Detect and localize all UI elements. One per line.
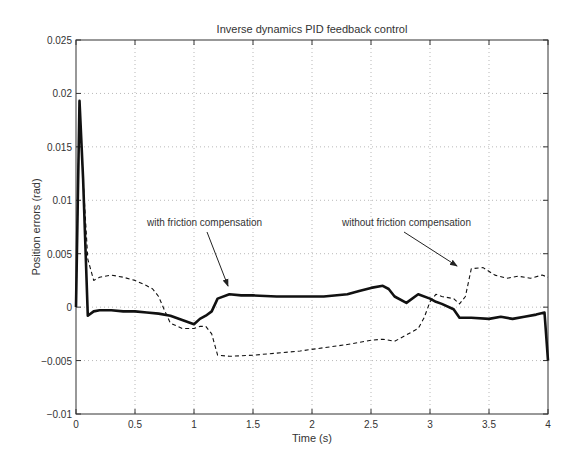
y-tick-label: 0.01 (53, 195, 73, 206)
annotation-without-friction: without friction compensation (341, 217, 471, 228)
axis-ticks: 00.511.522.533.54−0.01−0.00500.0050.010.… (41, 35, 551, 430)
annotations: with friction compensationwithout fricti… (146, 217, 471, 286)
x-tick-label: 1 (191, 419, 197, 430)
x-tick-label: 2 (309, 419, 315, 430)
y-tick-label: −0.005 (41, 356, 72, 367)
y-tick-label: 0.015 (47, 142, 72, 153)
line-chart: Inverse dynamics PID feedback control 00… (0, 0, 568, 461)
x-tick-label: 3.5 (482, 419, 496, 430)
y-tick-label: 0.02 (53, 88, 73, 99)
x-tick-label: 0 (73, 419, 79, 430)
y-tick-label: 0.025 (47, 35, 72, 46)
y-axis-label: Position errors (rad) (30, 178, 42, 275)
x-tick-label: 3 (427, 419, 433, 430)
annotation-with-friction: with friction compensation (146, 217, 262, 228)
x-tick-label: 1.5 (246, 419, 260, 430)
data-series (76, 101, 548, 361)
series-with-friction-compensation (76, 101, 548, 361)
y-tick-label: 0.005 (47, 249, 72, 260)
x-tick-label: 0.5 (128, 419, 142, 430)
x-axis-label: Time (s) (292, 432, 332, 444)
arrow-icon (207, 232, 228, 286)
y-tick-label: −0.01 (47, 409, 73, 420)
arrow-icon (404, 232, 457, 266)
y-tick-label: 0 (66, 302, 72, 313)
x-tick-label: 2.5 (364, 419, 378, 430)
x-tick-label: 4 (545, 419, 551, 430)
chart-title: Inverse dynamics PID feedback control (217, 23, 408, 35)
